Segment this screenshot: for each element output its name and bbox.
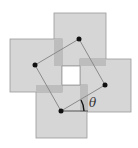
center-dot-right [103,83,108,88]
diagram-canvas: θ [0,0,138,148]
center-dot-bottom [59,109,64,114]
center-dot-top [77,37,82,42]
center-hole [62,66,80,85]
theta-label: θ [89,96,97,110]
overlap-bottom-left [36,85,62,92]
overlap-top-right [80,59,106,66]
center-dot-left [33,63,38,68]
